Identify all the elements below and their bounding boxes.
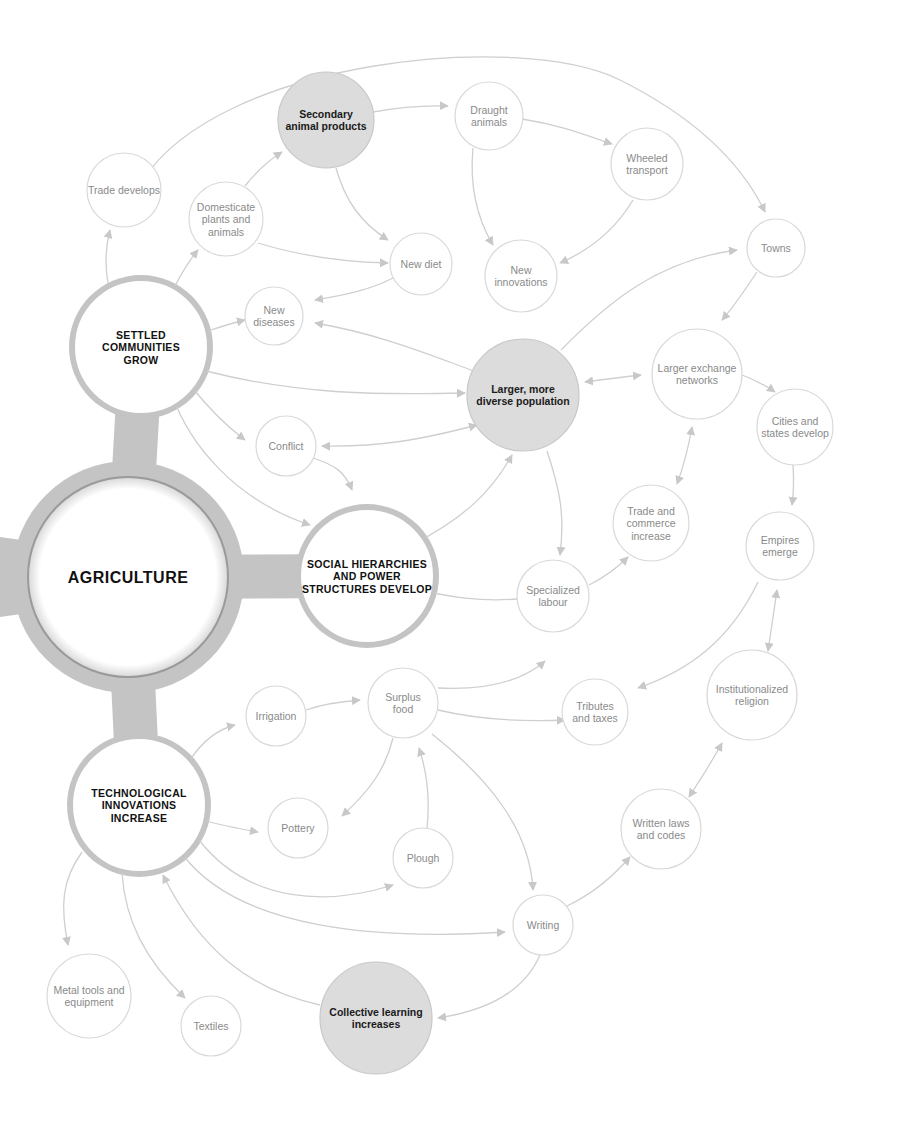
edge-arrow bbox=[183, 855, 505, 934]
node-label: New diet bbox=[401, 258, 442, 270]
node-label: Trade develops bbox=[88, 184, 160, 196]
node-label: Conflict bbox=[268, 440, 303, 452]
node-plough: Plough bbox=[393, 828, 453, 888]
edge-arrow bbox=[522, 119, 612, 144]
node-label: Towns bbox=[761, 242, 791, 254]
edge-arrow bbox=[560, 200, 633, 263]
edge-arrow bbox=[792, 465, 794, 505]
edge-arrow bbox=[306, 700, 360, 710]
node-religion: Institutionalizedreligion bbox=[707, 650, 797, 740]
hub-social: SOCIAL HIERARCHIESAND POWERSTRUCTURES DE… bbox=[299, 508, 435, 644]
edge-arrow bbox=[174, 250, 198, 288]
node-conflict: Conflict bbox=[256, 416, 316, 476]
node-wheeled: Wheeledtransport bbox=[611, 128, 683, 200]
node-trade-commerce: Trade andcommerceincrease bbox=[613, 485, 689, 561]
edge-arrow bbox=[342, 738, 393, 816]
edge-arrow bbox=[438, 710, 565, 721]
node-new-diet: New diet bbox=[390, 233, 452, 295]
edge-arrow bbox=[315, 278, 393, 300]
node-towns: Towns bbox=[747, 219, 805, 277]
node-label: Tributesand taxes bbox=[572, 700, 618, 725]
node-writing: Writing bbox=[513, 895, 573, 955]
edge-arrow bbox=[315, 323, 474, 371]
edge-arrow bbox=[472, 148, 493, 245]
node-trade-develops: Trade develops bbox=[87, 153, 161, 227]
edge-arrow bbox=[412, 455, 512, 545]
edge-arrow bbox=[245, 152, 282, 186]
node-secondary: Secondaryanimal products bbox=[278, 72, 374, 168]
node-written-laws: Written lawsand codes bbox=[621, 789, 701, 869]
node-new-diseases: Newdiseases bbox=[245, 287, 303, 345]
hub-settled: SETTLEDCOMMUNITIESGROW bbox=[73, 279, 209, 415]
node-label: Trade andcommerceincrease bbox=[626, 505, 675, 542]
hub-agriculture: AGRICULTURE bbox=[28, 477, 228, 677]
edge-arrow bbox=[258, 243, 388, 263]
edge-arrow bbox=[722, 272, 757, 320]
edge-arrow bbox=[190, 725, 235, 760]
edge-arrow bbox=[207, 821, 258, 832]
edge-arrow bbox=[438, 661, 545, 688]
agriculture-concept-diagram: Trade developsDomesticateplants andanima… bbox=[0, 0, 898, 1139]
node-label: Irrigation bbox=[256, 710, 297, 722]
edge-arrow bbox=[567, 857, 630, 906]
edge-arrow bbox=[589, 557, 628, 585]
node-label: Pottery bbox=[281, 822, 315, 834]
node-domesticate: Domesticateplants andanimals bbox=[189, 182, 263, 256]
node-label: Textiles bbox=[193, 1020, 228, 1032]
node-collective: Collective learningincreases bbox=[320, 962, 432, 1074]
node-label: Writing bbox=[527, 919, 560, 931]
node-textiles: Textiles bbox=[181, 996, 241, 1056]
edge-arrow bbox=[122, 873, 185, 998]
node-label: Wheeledtransport bbox=[626, 152, 668, 177]
node-pottery: Pottery bbox=[268, 798, 328, 858]
node-metal-tools: Metal tools andequipment bbox=[47, 954, 131, 1038]
edge-arrow bbox=[585, 375, 641, 382]
edge-arrow bbox=[419, 748, 428, 828]
edge-arrow bbox=[768, 590, 777, 651]
edge-arrow bbox=[206, 371, 465, 394]
center-label: AGRICULTURE bbox=[68, 569, 189, 586]
node-larger-exchange: Larger exchangenetworks bbox=[652, 329, 742, 419]
edge-arrow bbox=[190, 385, 245, 440]
node-population: Larger, morediverse population bbox=[467, 339, 579, 451]
node-label: Written lawsand codes bbox=[633, 817, 690, 842]
node-surplus: Surplusfood bbox=[368, 668, 438, 738]
nodes: Trade developsDomesticateplants andanima… bbox=[28, 72, 833, 1074]
node-empires: Empiresemerge bbox=[746, 512, 814, 580]
edge-arrow bbox=[373, 106, 448, 112]
node-new-innovations: Newinnovations bbox=[485, 240, 557, 312]
edge-arrow bbox=[208, 320, 245, 331]
hub-tech: TECHNOLOGICALINNOVATIONSINCREASE bbox=[71, 737, 207, 873]
edge-arrow bbox=[547, 451, 562, 555]
node-label: Draughtanimals bbox=[470, 104, 507, 129]
edge-arrow bbox=[313, 458, 352, 490]
node-label: Empiresemerge bbox=[761, 534, 800, 559]
edge-arrow bbox=[336, 168, 388, 240]
node-draught: Draughtanimals bbox=[455, 82, 523, 150]
node-cities: Cities andstates develop bbox=[757, 389, 833, 465]
node-specialized: Specializedlabour bbox=[517, 560, 589, 632]
edge-arrow bbox=[64, 852, 82, 945]
node-tributes: Tributesand taxes bbox=[562, 679, 628, 745]
edge-arrow bbox=[322, 425, 477, 446]
edge-arrow bbox=[438, 955, 540, 1018]
node-label: Plough bbox=[407, 852, 440, 864]
edge-arrow bbox=[677, 427, 692, 484]
edge-arrow bbox=[742, 375, 775, 392]
edge-arrow bbox=[106, 230, 110, 283]
edge-arrow bbox=[689, 743, 722, 797]
node-irrigation: Irrigation bbox=[246, 686, 306, 746]
